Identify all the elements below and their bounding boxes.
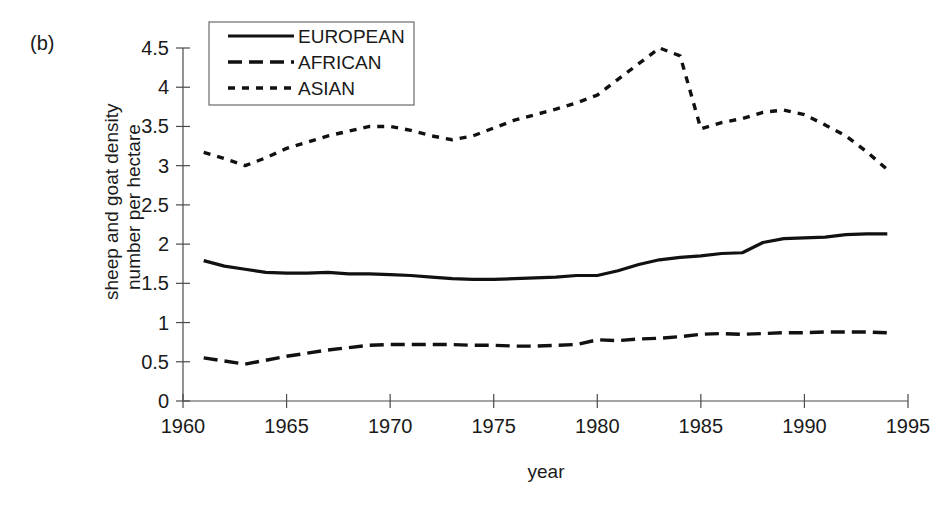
y-tick-label: 1.5 <box>141 272 169 294</box>
y-tick-label: 3 <box>158 155 169 177</box>
legend-label-european: EUROPEAN <box>298 26 405 47</box>
x-tick-label: 1960 <box>161 415 206 437</box>
legend: EUROPEANAFRICANASIAN <box>209 22 414 105</box>
x-tick-label: 1975 <box>471 415 516 437</box>
x-tick-label: 1970 <box>368 415 413 437</box>
series-line-african <box>204 332 888 364</box>
y-tick-label: 0.5 <box>141 351 169 373</box>
x-tick-label: 1965 <box>264 415 309 437</box>
y-tick-label: 0 <box>158 390 169 412</box>
y-tick-label: 2.5 <box>141 194 169 216</box>
y-tick-label: 4.5 <box>141 37 169 59</box>
x-axis-title: year <box>528 461 566 482</box>
y-tick-label: 4 <box>158 76 169 98</box>
x-tick-label: 1985 <box>679 415 724 437</box>
y-axis-title: sheep and goat density number per hectar… <box>101 103 144 300</box>
chart-figure: 00.511.522.533.544.5 1960196519701975198… <box>0 0 941 505</box>
x-tick-label: 1995 <box>886 415 931 437</box>
x-tick-label: 1980 <box>575 415 620 437</box>
y-axis-title-line2: number per hectare <box>123 124 144 290</box>
y-tick-label: 1 <box>158 312 169 334</box>
y-tick-label: 2 <box>158 233 169 255</box>
y-tick-label: 3.5 <box>141 115 169 137</box>
legend-label-asian: ASIAN <box>298 78 355 99</box>
series-line-european <box>204 234 888 280</box>
legend-label-african: AFRICAN <box>298 52 381 73</box>
x-tick-label: 1990 <box>782 415 827 437</box>
y-axis-title-line1: sheep and goat density <box>101 103 122 300</box>
